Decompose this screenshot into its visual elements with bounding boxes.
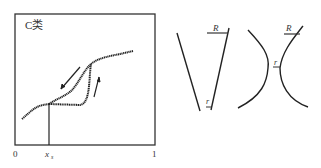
x-tick-0: 0 — [13, 149, 18, 159]
hourglass-pore-shape: R r — [238, 23, 308, 108]
hourglass-r-label: r — [274, 58, 278, 67]
arrow-desorption-icon — [61, 67, 80, 89]
x-tick-xs-subscript: s — [51, 154, 54, 160]
x-tick-xs: x — [44, 149, 49, 159]
hourglass-R-label: R — [285, 23, 292, 33]
cone-pore-shape: R r — [177, 23, 229, 111]
cone-R-label: R — [212, 23, 219, 33]
curve-lower-start — [22, 104, 49, 119]
cone-r-label: r — [206, 97, 210, 106]
panel-label: C类 — [25, 18, 43, 31]
arrow-adsorption-icon — [94, 77, 100, 97]
curve-plateau — [91, 51, 133, 64]
plot-frame — [15, 14, 155, 145]
curve-desorption-branch — [49, 64, 91, 104]
diagram-canvas: C类 0 x s 1 R r R r — [0, 0, 321, 168]
x-tick-1: 1 — [152, 149, 157, 159]
